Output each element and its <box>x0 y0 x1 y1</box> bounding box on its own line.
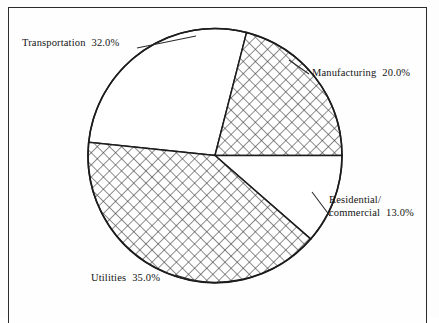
pie-label-utilities-value: 35.0% <box>132 272 160 283</box>
pie-label-transportation-name: Transportation <box>22 37 86 48</box>
pie-label-residential-commercial: Residential/ commercial13.0% <box>329 194 437 219</box>
pie-label-manufacturing-value: 20.0% <box>382 67 410 78</box>
pie-label-residential-line2: commercial <box>329 207 380 218</box>
pie-label-transportation-value: 32.0% <box>92 37 120 48</box>
pie-label-residential-value: 13.0% <box>386 207 414 218</box>
pie-label-manufacturing-name: Manufacturing <box>312 67 376 78</box>
pie-label-utilities-name: Utilities <box>91 272 126 283</box>
pie-label-transportation: Transportation32.0% <box>22 37 119 50</box>
pie-label-utilities: Utilities35.0% <box>91 272 160 285</box>
pie-label-manufacturing: Manufacturing20.0% <box>312 67 410 80</box>
pie-label-residential-line1: Residential/ <box>329 194 381 205</box>
